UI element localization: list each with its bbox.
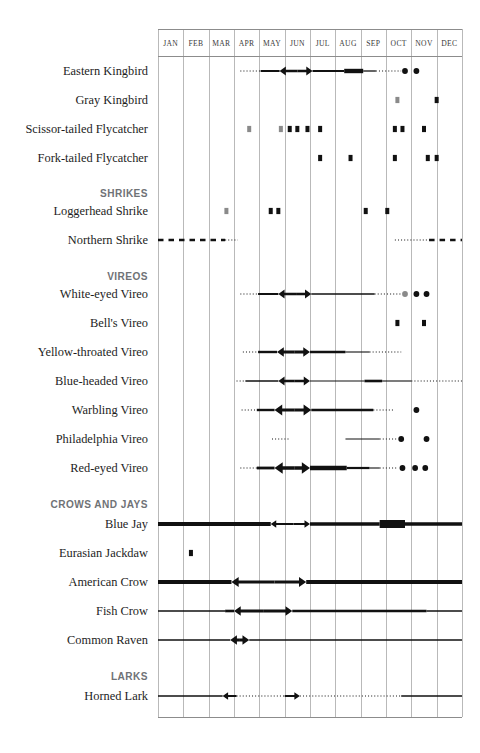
record-marker-square <box>318 155 322 161</box>
migration-arrow-left <box>223 692 237 699</box>
migration-arrow-right <box>239 635 249 645</box>
record-marker-square <box>435 155 439 161</box>
migration-arrow-right <box>294 520 310 527</box>
migration-arrow-right <box>297 67 312 76</box>
migration-arrow-left <box>277 347 295 357</box>
migration-arrow-right <box>275 577 307 587</box>
record-marker-square <box>276 208 280 214</box>
record-marker-circle <box>400 465 406 471</box>
migration-arrow-left <box>278 290 296 299</box>
record-marker-square <box>305 126 309 132</box>
record-marker-circle <box>414 68 420 74</box>
migration-arrow-left <box>280 67 298 76</box>
record-marker-circle <box>398 436 404 442</box>
record-marker-square <box>349 155 353 161</box>
record-marker-square <box>400 126 404 132</box>
record-marker-circle <box>402 68 408 74</box>
migration-arrow-right <box>285 692 300 699</box>
record-marker-square <box>422 126 426 132</box>
record-marker-circle <box>412 465 418 471</box>
record-marker-square <box>189 550 193 556</box>
migration-arrow-left <box>271 520 294 527</box>
migration-arrow-left <box>230 635 239 645</box>
occurrence-bars-layer <box>0 0 480 753</box>
record-marker-square <box>393 155 397 161</box>
record-marker-circle <box>424 291 430 297</box>
migration-arrow-left <box>275 405 295 416</box>
migration-arrow-right <box>295 405 311 416</box>
migration-arrow-left <box>234 606 263 616</box>
migration-arrow-right <box>295 347 310 357</box>
migration-arrow-right <box>263 606 292 616</box>
record-marker-square <box>247 126 251 132</box>
migration-arrow-left <box>275 462 295 474</box>
record-marker-square <box>269 208 273 214</box>
record-marker-square <box>364 208 368 214</box>
record-marker-square <box>385 208 389 214</box>
record-marker-square <box>224 208 228 214</box>
seasonal-occurrence-chart: Eastern KingbirdGray KingbirdScissor-tai… <box>0 0 480 753</box>
record-marker-square <box>295 126 299 132</box>
record-marker-square <box>395 320 399 326</box>
record-marker-square <box>422 320 426 326</box>
migration-arrow-right <box>295 462 310 474</box>
record-marker-square <box>395 97 399 103</box>
record-marker-circle <box>414 407 420 413</box>
migration-arrow-left <box>231 577 274 587</box>
migration-arrow-left <box>278 377 294 386</box>
record-marker-circle <box>402 291 408 297</box>
migration-arrow-right <box>295 377 310 386</box>
record-marker-square <box>426 155 430 161</box>
record-marker-square <box>318 126 322 132</box>
record-marker-circle <box>422 465 428 471</box>
record-marker-square <box>435 97 439 103</box>
record-marker-square <box>279 126 283 132</box>
record-marker-square <box>288 126 292 132</box>
record-marker-circle <box>414 291 420 297</box>
migration-arrow-right <box>296 290 311 299</box>
record-marker-circle <box>424 436 430 442</box>
record-marker-square <box>393 126 397 132</box>
